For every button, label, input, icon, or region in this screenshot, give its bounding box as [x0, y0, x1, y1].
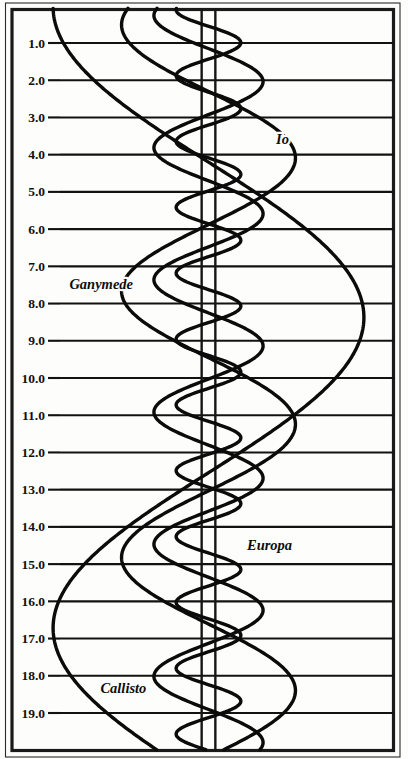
- y-tick-label: 16.0: [21, 594, 45, 609]
- y-tick-label: 6.0: [28, 222, 45, 237]
- y-tick-label: 14.0: [21, 519, 45, 534]
- y-tick-label: 19.0: [21, 706, 45, 721]
- y-tick-label: 10.0: [21, 371, 45, 386]
- y-tick-label: 11.0: [22, 408, 45, 423]
- y-tick-label: 8.0: [28, 296, 45, 311]
- plot-area: 1.02.03.04.05.06.07.08.09.010.011.012.01…: [0, 0, 408, 759]
- y-tick-label: 1.0: [28, 36, 45, 51]
- jupiter-moons-chart: 1.02.03.04.05.06.07.08.09.010.011.012.01…: [0, 0, 408, 759]
- y-tick-label: 7.0: [28, 259, 45, 274]
- y-tick-label: 3.0: [28, 110, 45, 125]
- y-tick-label: 12.0: [21, 445, 45, 460]
- y-tick-label: 9.0: [28, 333, 45, 348]
- moon-label-callisto: Callisto: [100, 680, 146, 696]
- y-tick-label: 15.0: [21, 557, 45, 572]
- y-tick-label: 2.0: [28, 73, 45, 88]
- y-tick-label: 17.0: [21, 631, 45, 646]
- moon-label-ganymede: Ganymede: [69, 276, 133, 292]
- y-tick-label: 4.0: [28, 147, 45, 162]
- y-tick-label: 18.0: [21, 668, 45, 683]
- moon-label-io: Io: [275, 131, 289, 147]
- y-tick-label: 5.0: [28, 184, 45, 199]
- y-tick-label: 13.0: [21, 482, 45, 497]
- moon-label-europa: Europa: [246, 537, 292, 553]
